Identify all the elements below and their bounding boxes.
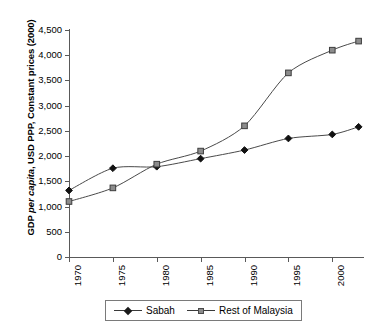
legend-line-rest-of-malaysia <box>187 306 215 315</box>
diamond-marker-icon <box>109 165 116 172</box>
legend-label-sabah: Sabah <box>146 305 175 316</box>
square-marker-icon <box>242 123 248 129</box>
diamond-marker-icon <box>241 147 248 154</box>
legend-item-sabah[interactable]: Sabah <box>114 305 175 316</box>
diamond-marker-icon <box>355 123 362 130</box>
diamond-marker-icon <box>285 135 292 142</box>
legend-label-rest-of-malaysia: Rest of Malaysia <box>219 305 293 316</box>
chart-figure: GDP per capita, USD PPP, Constant prices… <box>0 0 375 330</box>
series-line <box>69 41 359 201</box>
legend-item-rest-of-malaysia[interactable]: Rest of Malaysia <box>187 305 293 316</box>
square-marker-icon <box>198 308 204 314</box>
series-line <box>69 127 359 191</box>
square-marker-icon <box>286 70 292 76</box>
square-marker-icon <box>356 38 362 44</box>
square-marker-icon <box>154 161 160 167</box>
square-marker-icon <box>198 148 204 154</box>
square-marker-icon <box>110 185 116 191</box>
square-marker-icon <box>66 199 72 205</box>
square-marker-icon <box>329 47 335 53</box>
series-rest-of-malaysia <box>66 38 361 204</box>
legend-line-sabah <box>114 306 142 315</box>
series-sabah <box>66 123 362 193</box>
plot-series-layer <box>0 0 375 330</box>
diamond-marker-icon <box>66 187 73 194</box>
chart-legend: Sabah Rest of Malaysia <box>105 300 302 321</box>
diamond-marker-icon <box>329 131 336 138</box>
diamond-marker-icon <box>197 155 204 162</box>
diamond-marker-icon <box>124 307 132 315</box>
